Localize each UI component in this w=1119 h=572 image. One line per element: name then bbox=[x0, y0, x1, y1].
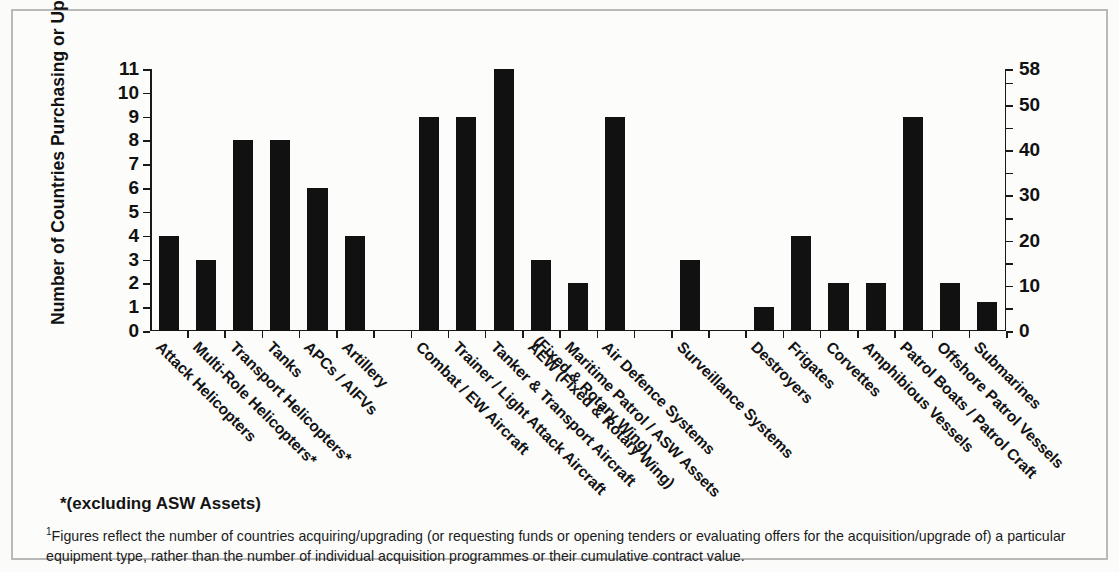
y-tick-label-left: 2 bbox=[128, 273, 139, 292]
bar bbox=[196, 260, 216, 331]
y-tick-label-right: 10 bbox=[1019, 276, 1040, 295]
y-tick-label-right: 50 bbox=[1019, 95, 1040, 114]
y-tick-left bbox=[143, 93, 150, 95]
y-tick-right bbox=[1006, 150, 1013, 152]
bar bbox=[494, 69, 514, 331]
y-tick-right bbox=[1006, 128, 1013, 130]
bar bbox=[605, 117, 625, 331]
bar bbox=[791, 236, 811, 331]
y-tick-label-left: 0 bbox=[128, 321, 139, 340]
bar bbox=[940, 283, 960, 331]
plot-area: 01234567891011 0102030405058 Number of C… bbox=[150, 69, 1006, 331]
bar bbox=[233, 140, 253, 331]
y-tick-right bbox=[1006, 308, 1013, 310]
y-tick-right bbox=[1006, 241, 1013, 243]
bar bbox=[866, 283, 886, 331]
bar bbox=[903, 117, 923, 331]
bar bbox=[270, 140, 290, 331]
y-tick-left bbox=[143, 307, 150, 309]
y-axis-left-title: Number of Countries Purchasing or Upgrad… bbox=[48, 75, 69, 325]
bar bbox=[977, 302, 997, 331]
y-tick-label-left: 11 bbox=[119, 59, 139, 78]
y-tick-label-left: 5 bbox=[128, 202, 139, 221]
y-tick-right bbox=[1006, 69, 1013, 71]
y-tick-left bbox=[143, 212, 150, 214]
y-tick-left bbox=[143, 117, 150, 119]
y-tick-label-left: 8 bbox=[128, 130, 139, 149]
bar bbox=[680, 260, 700, 331]
x-axis-category-labels: Attack HelicoptersMulti-Role Helicopters… bbox=[150, 333, 1006, 503]
y-tick-left bbox=[143, 331, 150, 333]
y-tick-left bbox=[143, 236, 150, 238]
bar bbox=[456, 117, 476, 331]
y-axis-left-title-text: Number of Countries Purchasing or Upgrad… bbox=[48, 75, 69, 325]
y-tick-left bbox=[143, 164, 150, 166]
y-tick-label-left: 3 bbox=[128, 250, 139, 269]
y-tick-right bbox=[1006, 173, 1013, 175]
footnote: 1Figures reflect the number of countries… bbox=[46, 525, 1091, 566]
y-tick-left bbox=[143, 69, 150, 71]
y-tick-left bbox=[143, 283, 150, 285]
y-tick-right bbox=[1006, 286, 1013, 288]
bar bbox=[531, 260, 551, 331]
y-tick-label-right: 40 bbox=[1019, 140, 1040, 159]
y-tick-label-left: 9 bbox=[128, 107, 139, 126]
y-tick-label-left: 10 bbox=[118, 83, 139, 102]
y-tick-label-left: 6 bbox=[128, 178, 139, 197]
y-tick-label-right: 58 bbox=[1019, 59, 1040, 78]
x-tick bbox=[1006, 331, 1008, 338]
y-tick-right bbox=[1006, 195, 1013, 197]
y-tick-left bbox=[143, 140, 150, 142]
bar bbox=[159, 236, 179, 331]
y-tick-right bbox=[1006, 218, 1013, 220]
footnote-text: Figures reflect the number of countries … bbox=[46, 528, 1066, 564]
y-tick-label-left: 1 bbox=[128, 297, 139, 316]
bar bbox=[828, 283, 848, 331]
y-tick-label-left: 7 bbox=[128, 154, 139, 173]
bar bbox=[754, 307, 774, 331]
y-tick-left bbox=[143, 188, 150, 190]
y-tick-right bbox=[1006, 263, 1013, 265]
figure-frame: 01234567891011 0102030405058 Number of C… bbox=[11, 9, 1108, 560]
y-tick-label-right: 30 bbox=[1019, 185, 1040, 204]
y-tick-left bbox=[143, 260, 150, 262]
y-tick-right bbox=[1006, 83, 1013, 85]
chart-figure: 01234567891011 0102030405058 Number of C… bbox=[0, 0, 1119, 572]
bar bbox=[307, 188, 327, 331]
y-tick-label-left: 4 bbox=[128, 226, 139, 245]
bar bbox=[568, 283, 588, 331]
y-tick-label-right: 20 bbox=[1019, 231, 1040, 250]
y-tick-label-right: 0 bbox=[1019, 321, 1030, 340]
bar bbox=[419, 117, 439, 331]
y-tick-right bbox=[1006, 105, 1013, 107]
asterisk-note: *(excluding ASW Assets) bbox=[60, 494, 261, 514]
y-axis-left-line bbox=[150, 69, 152, 331]
bar bbox=[345, 236, 365, 331]
y-axis-right-line bbox=[1005, 69, 1007, 331]
